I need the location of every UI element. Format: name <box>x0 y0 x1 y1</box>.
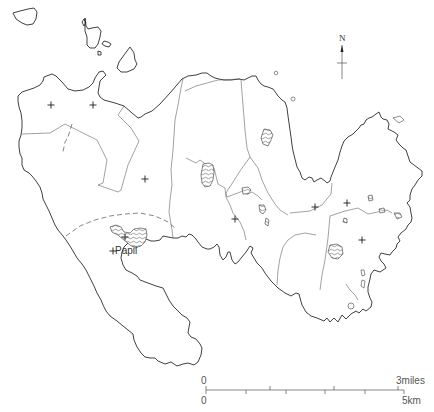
boundary <box>186 158 246 240</box>
loch-chain-3 <box>265 218 269 226</box>
dashed-boundary <box>63 124 72 152</box>
pond-north <box>274 71 278 75</box>
boundary <box>250 157 288 215</box>
site-marker-cross-icon <box>344 200 351 207</box>
site-marker-cross-icon <box>232 216 239 223</box>
scale-bottom-start: 0 <box>201 395 207 406</box>
islet-north-east <box>102 41 111 47</box>
scale-top-start: 0 <box>201 375 207 386</box>
site-marker-cross-icon <box>48 102 55 109</box>
boundary <box>290 183 332 213</box>
loch-east-small-4 <box>394 213 402 219</box>
loch-east <box>328 244 343 259</box>
loch-east-small-2 <box>379 208 385 213</box>
boundary <box>22 106 139 192</box>
site-marker-cross-icon <box>142 176 149 183</box>
boundary <box>185 79 240 91</box>
islet-northeast-tip <box>393 116 404 123</box>
loch-east-small-1 <box>368 195 373 201</box>
island-east-of-north <box>117 47 137 72</box>
boundary <box>277 233 316 285</box>
island-northwest <box>13 8 37 25</box>
loch-outline-1 <box>361 270 365 276</box>
boundary <box>241 80 250 157</box>
islet-small <box>98 51 101 55</box>
map-canvas: Papil N 0 3miles 0 5km <box>0 0 434 412</box>
loch-east-small-3 <box>343 218 347 223</box>
main-island-coast <box>18 71 422 366</box>
boundary <box>346 284 358 300</box>
loch-outline-3 <box>348 303 354 309</box>
boundary <box>169 79 183 238</box>
north-label: N <box>339 33 346 43</box>
north-arrow-icon <box>341 45 344 52</box>
scale-bottom-end: 5km <box>402 395 421 406</box>
loch-central <box>201 163 214 187</box>
pond-north-2 <box>291 97 295 101</box>
loch-outline-2 <box>361 280 365 288</box>
island-north <box>85 18 101 48</box>
loch-chain-2 <box>259 205 266 214</box>
north-arrow: N <box>337 33 347 79</box>
scale-bar: 0 3miles 0 5km <box>201 375 425 406</box>
place-label-papil: Papil <box>115 245 137 256</box>
scale-top-end: 3miles <box>396 375 425 386</box>
site-marker-cross-icon <box>359 237 366 244</box>
site-marker-cross-icon <box>90 102 97 109</box>
loch-north-central <box>261 129 273 146</box>
